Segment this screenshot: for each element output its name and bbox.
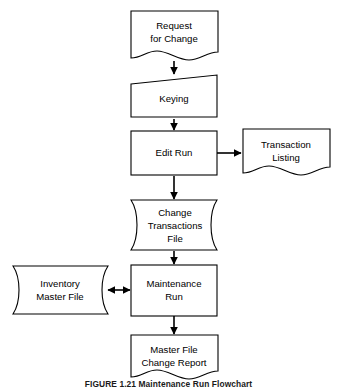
node-label: Transactions (148, 220, 203, 231)
node-label: Edit Run (156, 147, 193, 158)
node-label: Listing (272, 152, 300, 163)
node-label: Run (165, 291, 183, 302)
node-label: Transaction (261, 139, 311, 150)
node-label: Master File (36, 291, 83, 302)
node-transaction-listing: Transaction Listing (243, 129, 330, 175)
node-label: Inventory (40, 278, 80, 289)
flowchart-figure: Request for Change Keying Edit Run Trans… (0, 0, 337, 392)
node-keying: Keying (131, 75, 217, 117)
node-label: File (167, 233, 182, 244)
node-label: Change (158, 207, 192, 218)
node-inventory-master-file: Inventory Master File (13, 266, 108, 314)
node-maintenance-run: Maintenance Run (131, 265, 217, 316)
node-master-file-change-report: Master File Change Report (131, 335, 218, 379)
node-change-transactions-file: Change Transactions File (131, 200, 217, 250)
node-label: Maintenance (147, 278, 202, 289)
node-label: Request (156, 20, 192, 31)
node-label: Master File (150, 344, 197, 355)
node-label: Change Report (141, 357, 206, 368)
node-label: Keying (159, 93, 188, 104)
flowchart-canvas: Request for Change Keying Edit Run Trans… (0, 0, 337, 392)
figure-caption: FIGURE 1.21 Maintenance Run Flowchart (0, 379, 337, 389)
node-edit-run: Edit Run (131, 131, 217, 175)
node-label: for Change (150, 33, 197, 44)
node-request-for-change: Request for Change (131, 11, 218, 60)
